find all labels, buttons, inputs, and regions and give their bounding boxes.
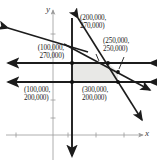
feasible-region-graph: (100,000, 270,000) (200,000, 270,000) (2… [0,0,157,166]
point-label-200000-270000: (200,000, 270,000) [80,14,132,31]
vertex-dot-100000-270000 [70,61,74,65]
coordinate-axes [6,10,143,160]
shaded-feasible-region [72,63,118,82]
point-label-100000-270000: (100,000, 270,000) [12,44,64,61]
point-label-300000-200000: (300,000, 200,000) [82,86,136,103]
x-axis-label: x [145,128,149,138]
vertex-dot-300000-200000 [116,80,120,84]
leader-200-270 [96,54,99,61]
y-axis-label: y [46,4,50,14]
graph-canvas [0,0,157,166]
vertex-dot-250000-250000 [116,70,120,74]
point-label-100000-200000: (100,000, 200,000) [24,86,78,103]
vertex-dot-200000-270000 [106,61,110,65]
vertex-dot-100000-200000 [70,80,74,84]
point-label-250000-250000: (250,000, 250,000) [103,37,155,54]
